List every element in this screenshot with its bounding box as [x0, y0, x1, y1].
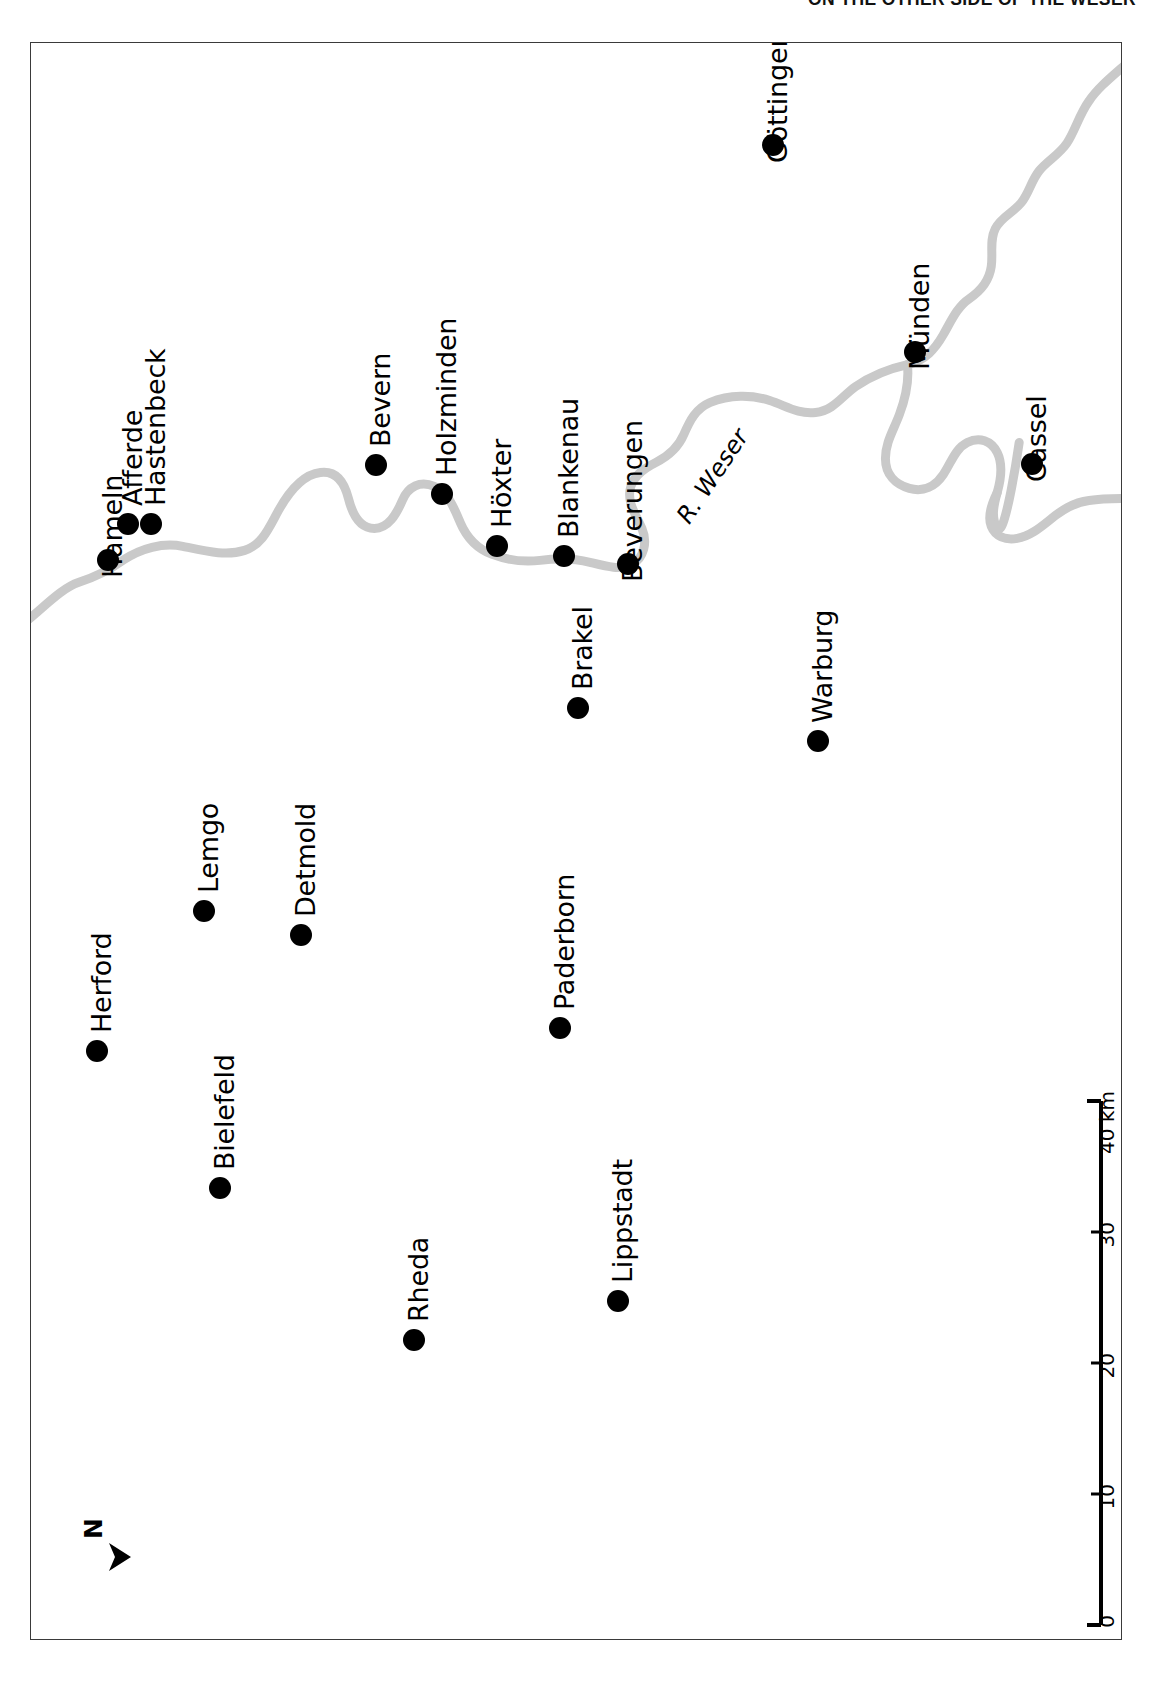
city-label: Münden — [906, 263, 933, 370]
city-dot-icon — [549, 1017, 571, 1039]
city-label: Hastenbeck — [142, 349, 169, 506]
city-label: Göttingen — [764, 42, 791, 163]
running-header-title: ON THE OTHER SIDE OF THE WESER — [808, 0, 1136, 10]
city-label: Paderborn — [551, 874, 578, 1010]
city-label: Herford — [88, 933, 115, 1033]
running-header: ON THE OTHER SIDE OF THE WESER — [0, 0, 1154, 22]
city-label: Blankenau — [555, 398, 582, 538]
city-label: Höxter — [488, 439, 515, 528]
city-dot-icon — [117, 513, 139, 535]
city-label: Beverungen — [619, 420, 646, 582]
scale-tick-label: 40 km — [1095, 1091, 1119, 1154]
city-dot-icon — [140, 513, 162, 535]
river-fulda-path — [885, 365, 1019, 530]
city-label: Brakel — [569, 606, 596, 690]
city-dot-icon — [807, 730, 829, 752]
city-label: Bielefeld — [211, 1054, 238, 1170]
city-label: Lemgo — [195, 803, 222, 893]
scale-bar: 010203040 km — [1061, 1093, 1121, 1633]
north-arrow-icon — [101, 1537, 161, 1577]
city-dot-icon — [209, 1177, 231, 1199]
city-label: Cassel — [1023, 396, 1050, 482]
north-arrow: N — [79, 1535, 159, 1579]
city-label: Detmold — [292, 803, 319, 917]
city-dot-icon — [607, 1290, 629, 1312]
scale-tick-label: 20 — [1095, 1353, 1119, 1378]
city-label: Bevern — [367, 353, 394, 447]
scale-tick-label: 0 — [1095, 1615, 1119, 1628]
city-label: Holzminden — [433, 318, 460, 476]
map-frame: R. Weser HamelnAfferdeHastenbeckBevernHo… — [30, 42, 1122, 1640]
city-label: Warburg — [809, 610, 836, 723]
city-label: Lippstadt — [609, 1159, 636, 1283]
city-dot-icon — [553, 545, 575, 567]
city-dot-icon — [86, 1040, 108, 1062]
city-dot-icon — [193, 900, 215, 922]
city-label: Rheda — [405, 1237, 432, 1322]
river-weser-path-upper — [907, 65, 1121, 365]
scale-tick-label: 10 — [1095, 1484, 1119, 1509]
city-dot-icon — [290, 924, 312, 946]
city-dot-icon — [403, 1329, 425, 1351]
city-dot-icon — [486, 535, 508, 557]
city-dot-icon — [567, 697, 589, 719]
city-dot-icon — [431, 483, 453, 505]
city-dot-icon — [365, 454, 387, 476]
scale-tick-label: 30 — [1095, 1222, 1119, 1247]
north-arrow-label: N — [79, 1518, 108, 1539]
